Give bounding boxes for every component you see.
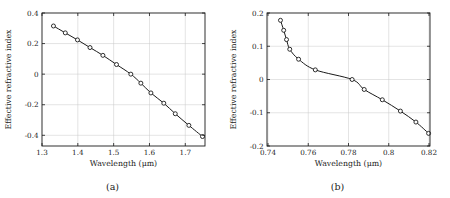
- ytick-label-3: -0.2: [25, 100, 39, 109]
- data-curve-0: [280, 20, 428, 133]
- y-axis-title: Effective refractive index: [229, 29, 238, 130]
- ytick-label-0: 0.2: [252, 9, 263, 18]
- xtick-label-2: 0.78: [340, 148, 356, 157]
- xtick-label-3: 0.8: [383, 148, 395, 157]
- xtick-label-4: 1.7: [180, 148, 192, 157]
- caption-a: (a): [0, 181, 225, 192]
- data-point-7: [139, 81, 143, 85]
- data-point-2: [75, 38, 79, 42]
- figure-container: 1.31.41.51.61.70.40.20-0.2-0.4Wavelength…: [0, 0, 450, 198]
- data-point-8: [149, 91, 153, 95]
- data-point-0: [51, 24, 55, 28]
- chart-b-svg: 0.740.760.780.80.820.20.10-0.1-0.2Wavele…: [225, 0, 450, 198]
- data-point-7: [362, 87, 366, 91]
- ytick-label-1: 0.2: [27, 39, 38, 48]
- data-point-4: [101, 53, 105, 57]
- xtick-label-0: 1.3: [36, 148, 48, 157]
- data-point-10: [414, 120, 418, 124]
- ytick-label-4: -0.2: [250, 142, 264, 151]
- data-markers-0: [51, 24, 204, 139]
- data-point-2: [285, 38, 289, 42]
- data-markers-0: [278, 18, 430, 135]
- data-point-9: [398, 109, 402, 113]
- data-point-11: [187, 123, 191, 127]
- data-point-1: [63, 31, 67, 35]
- xtick-label-1: 0.76: [300, 148, 316, 157]
- axis-ticks: 1.31.41.51.61.70.40.20-0.2-0.4: [25, 9, 205, 157]
- xtick-label-2: 1.5: [108, 148, 120, 157]
- data-point-4: [297, 57, 301, 61]
- data-point-5: [115, 63, 119, 67]
- caption-b: (b): [225, 181, 450, 192]
- panel-b: 0.740.760.780.80.820.20.10-0.1-0.2Wavele…: [225, 0, 450, 198]
- x-axis-title: Wavelength (μm): [90, 159, 157, 168]
- ytick-label-4: -0.4: [25, 131, 39, 140]
- x-axis-title: Wavelength (μm): [315, 159, 382, 168]
- y-axis-title: Effective refractive index: [4, 29, 13, 130]
- xtick-label-1: 1.4: [72, 148, 84, 157]
- data-point-8: [380, 98, 384, 102]
- data-point-6: [129, 72, 133, 76]
- chart-a-svg: 1.31.41.51.61.70.40.20-0.2-0.4Wavelength…: [0, 0, 225, 198]
- ytick-label-3: -0.1: [250, 108, 264, 117]
- data-point-3: [288, 47, 292, 51]
- data-point-0: [278, 18, 282, 22]
- ytick-label-2: 0: [259, 75, 264, 84]
- ytick-label-2: 0: [34, 70, 39, 79]
- axis-ticks: 0.740.760.780.80.820.20.10-0.1-0.2: [250, 9, 437, 157]
- xtick-label-4: 0.82: [421, 148, 437, 157]
- data-point-6: [350, 78, 354, 82]
- xtick-label-3: 1.6: [144, 148, 156, 157]
- grid-lines: [267, 13, 430, 146]
- ytick-label-1: 0.1: [252, 42, 263, 51]
- data-point-9: [162, 101, 166, 105]
- data-point-10: [173, 112, 177, 116]
- ytick-label-0: 0.4: [27, 9, 39, 18]
- data-curve-0: [53, 26, 202, 137]
- data-point-1: [282, 28, 286, 32]
- panel-a: 1.31.41.51.61.70.40.20-0.2-0.4Wavelength…: [0, 0, 225, 198]
- data-point-5: [313, 68, 317, 72]
- data-point-3: [88, 46, 92, 50]
